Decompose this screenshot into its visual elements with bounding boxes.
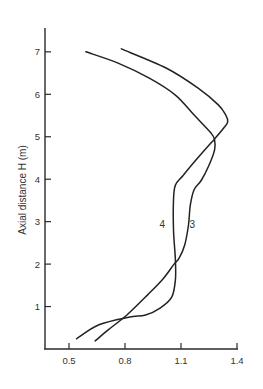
x-tick-label: 0.5 [62, 355, 75, 366]
x-tick-label: 1.4 [230, 355, 243, 366]
y-tick-label: 4 [35, 174, 40, 185]
x-ticks: 0.50.81.11.4 [62, 343, 243, 366]
y-ticks: 1234567 [35, 46, 51, 312]
series-group: 34 [77, 49, 228, 341]
series-line-3 [86, 52, 215, 341]
x-tick-label: 0.8 [118, 355, 131, 366]
series-line-4 [77, 49, 228, 339]
y-tick-label: 7 [35, 46, 40, 57]
y-tick-label: 2 [35, 259, 40, 270]
x-tick-label: 1.1 [174, 355, 187, 366]
series-label-3: 3 [189, 219, 195, 230]
plot-area: 0.50.81.11.4 1234567 34 Axial distance H… [17, 28, 244, 366]
y-tick-label: 1 [35, 301, 40, 312]
y-tick-label: 3 [35, 216, 40, 227]
series-label-4: 4 [160, 219, 166, 230]
y-axis-title: Axial distance H (m) [17, 145, 28, 234]
y-tick-label: 6 [35, 89, 40, 100]
y-tick-label: 5 [35, 131, 40, 142]
chart: 0.50.81.11.4 1234567 34 Axial distance H… [0, 0, 263, 389]
